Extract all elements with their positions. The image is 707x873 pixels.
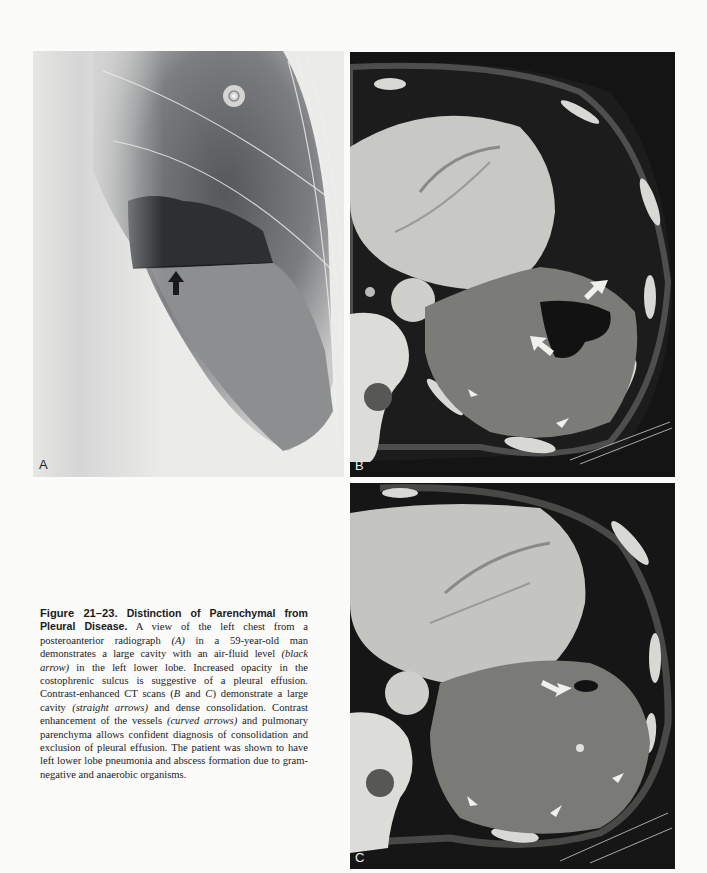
- figure-number: Figure 21–23.: [40, 607, 118, 619]
- caption-ref-a: (A): [171, 635, 185, 646]
- panel-label-b: B: [355, 459, 364, 472]
- radiograph-image: [33, 51, 344, 477]
- figure-panel-b-ct-scan: B: [350, 52, 675, 477]
- ct-image-c: [350, 483, 675, 869]
- caption-curved-arrows: (curved arrows): [167, 715, 237, 726]
- figure-caption: Figure 21–23. Distinction of Parenchymal…: [40, 607, 308, 781]
- panel-label-a: A: [39, 458, 48, 471]
- panel-label-c: C: [355, 851, 364, 864]
- ct-image-b: [350, 52, 675, 477]
- figure-panel-a-radiograph: A: [33, 51, 344, 477]
- caption-straight-arrows: (straight arrows): [72, 702, 148, 713]
- caption-text: and: [180, 688, 205, 699]
- figure-panel-c-ct-scan: C: [350, 483, 675, 869]
